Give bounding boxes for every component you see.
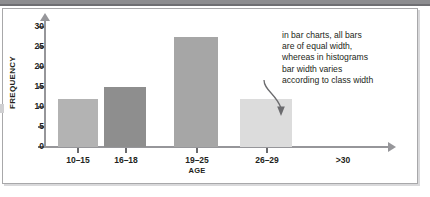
x-tick-label-over-30: >30 — [313, 155, 373, 165]
axis-arrow-up-icon — [40, 13, 50, 21]
x-tick-label-16-18: 16–18 — [96, 155, 156, 165]
bar-16-18 — [104, 87, 146, 147]
y-tick-label-20: 20 — [22, 62, 44, 70]
figure-container: FREQUENCY 0 5 10 15 20 25 30 — [0, 0, 430, 197]
y-axis-line — [44, 20, 46, 147]
axis-arrow-right-icon — [388, 142, 396, 152]
y-tick-label-20-wrap: 20 — [10, 62, 44, 70]
y-tick-label-5-wrap: 5 — [10, 122, 44, 130]
bar-chart-plot: FREQUENCY 0 5 10 15 20 25 30 — [0, 0, 430, 197]
y-tick-label-30: 30 — [22, 22, 44, 30]
y-tick-label-25-wrap: 25 — [10, 42, 44, 50]
y-tick-label-15-wrap: 15 — [10, 82, 44, 90]
y-tick-label-15: 15 — [22, 82, 44, 90]
x-axis-title: AGE — [167, 166, 227, 175]
annotation-line-5: according to class width — [282, 75, 404, 86]
annotation-line-2: are of equal width, — [282, 41, 404, 52]
y-tick-label-30-wrap: 30 — [10, 22, 44, 30]
x-tick-label-19-25: 19–25 — [167, 155, 227, 165]
annotation-line-3: whereas in histograms — [282, 52, 404, 63]
annotation-line-4: bar width varies — [282, 64, 404, 75]
y-tick-label-10: 10 — [22, 102, 44, 110]
x-tick-26-29 — [266, 148, 268, 153]
y-tick-label-25: 25 — [22, 42, 44, 50]
y-tick-label-5: 5 — [22, 122, 44, 130]
bar-19-25 — [174, 37, 218, 147]
y-tick-label-0: 0 — [22, 142, 44, 150]
y-tick-label-10-wrap: 10 — [10, 102, 44, 110]
annotation-line-1: in bar charts, all bars — [282, 30, 404, 41]
x-tick-label-26-29: 26–29 — [237, 155, 297, 165]
y-tick-label-0-wrap: 0 — [10, 142, 44, 150]
x-tick-10-15 — [77, 148, 79, 153]
curved-down-arrow-icon — [262, 78, 296, 122]
x-tick-19-25 — [196, 148, 198, 153]
bar-10-15 — [58, 99, 98, 147]
x-tick-16-18 — [125, 148, 127, 153]
annotation-text: in bar charts, all bars are of equal wid… — [282, 30, 404, 86]
